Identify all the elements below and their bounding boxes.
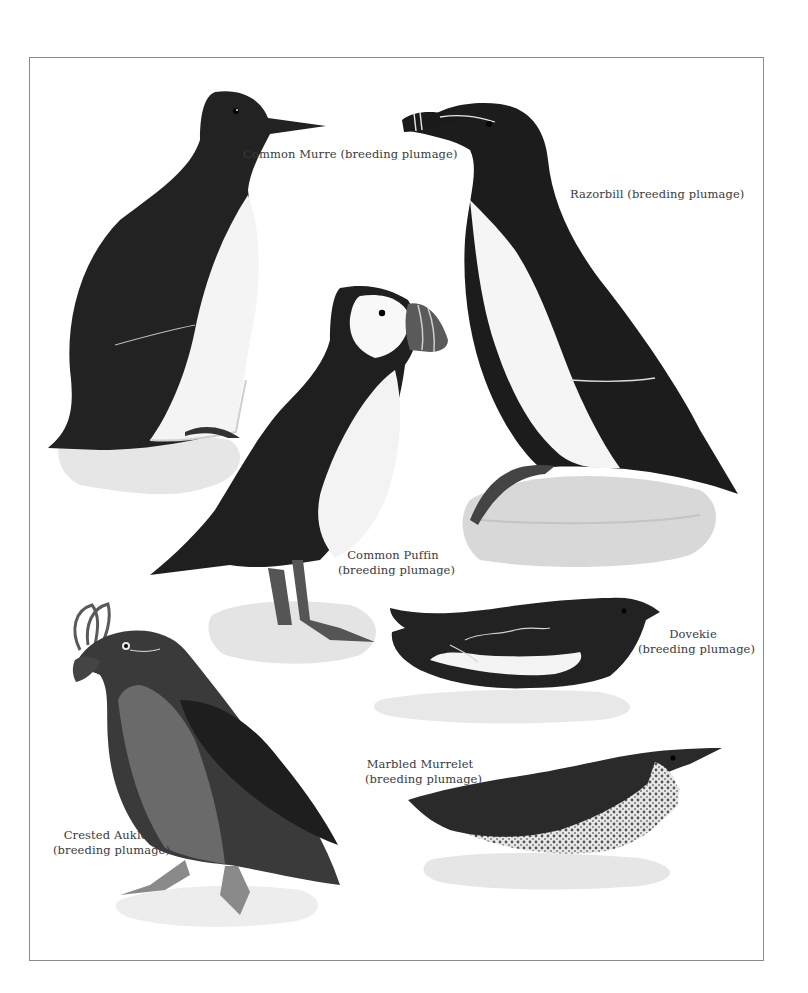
- label-dovekie: Dovekie (breeding plumage): [638, 627, 748, 657]
- dovekie-illustration: [374, 598, 660, 724]
- label-razorbill: Razorbill (breeding plumage): [570, 187, 744, 202]
- label-common-murre: Common Murre (breeding plumage): [243, 147, 458, 162]
- label-crested-auklet: Crested Auklet (breeding plumage): [53, 828, 163, 858]
- label-marbled-murrelet: Marbled Murrelet (breeding plumage): [365, 757, 475, 787]
- label-common-puffin: Common Puffin (breeding plumage): [338, 548, 448, 578]
- razorbill-illustration: [402, 103, 738, 567]
